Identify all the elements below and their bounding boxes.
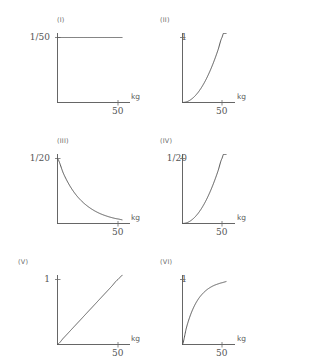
data-curve-5 xyxy=(58,276,123,345)
data-curve-4 xyxy=(183,155,227,224)
data-curve-2 xyxy=(183,34,227,103)
chart-panel-3: (III) 1/20 50 kg xyxy=(0,121,155,242)
figure-grid: (I) 1/50 50 kg (II) 1 50 kg (III) 1/20 5… xyxy=(0,0,310,363)
data-curve-3 xyxy=(58,159,123,220)
plot-area-6 xyxy=(155,242,310,363)
chart-panel-1: (I) 1/50 50 kg xyxy=(0,0,155,121)
chart-panel-2: (II) 1 50 kg xyxy=(155,0,310,121)
plot-area-1 xyxy=(0,0,155,121)
plot-area-2 xyxy=(155,0,310,121)
data-curve-6 xyxy=(183,282,227,345)
chart-panel-6: (VI) 1 50 kg xyxy=(155,242,310,363)
plot-area-3 xyxy=(0,121,155,242)
plot-area-4 xyxy=(155,121,310,242)
chart-panel-4: (IV) 1/20 50 kg xyxy=(155,121,310,242)
plot-area-5 xyxy=(0,242,155,363)
chart-panel-5: (V) 1 50 kg xyxy=(0,242,155,363)
